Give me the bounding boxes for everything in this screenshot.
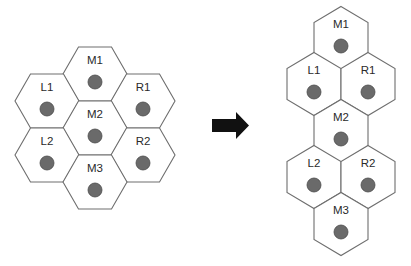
hex-label: M1 — [87, 54, 103, 66]
hex-label: R1 — [136, 81, 151, 93]
hex-label: M3 — [333, 204, 349, 216]
transform-arrow-icon — [212, 112, 249, 139]
base-station-dot-icon — [334, 132, 348, 146]
base-station-dot-icon — [136, 156, 150, 170]
base-station-dot-icon — [88, 75, 102, 89]
hex-label: L2 — [41, 135, 54, 147]
base-station-dot-icon — [307, 85, 321, 99]
base-station-dot-icon — [40, 102, 54, 116]
base-station-dot-icon — [361, 178, 375, 192]
hex-label: M1 — [333, 18, 349, 30]
hex-label: M3 — [87, 162, 103, 174]
hexagon-rearrangement-diagram: M1L1R1M2L2R2M3 M1L1R1M2L2R2M3 — [0, 0, 411, 266]
hex-label: R1 — [361, 64, 376, 76]
right-hex-cluster: M1L1R1M2L2R2M3 — [287, 7, 395, 256]
hex-label: L1 — [308, 64, 321, 76]
base-station-dot-icon — [88, 129, 102, 143]
base-station-dot-icon — [88, 183, 102, 197]
base-station-dot-icon — [40, 156, 54, 170]
hex-label: M2 — [87, 108, 103, 120]
base-station-dot-icon — [361, 85, 375, 99]
hex-label: L1 — [41, 81, 54, 93]
base-station-dot-icon — [334, 39, 348, 53]
base-station-dot-icon — [307, 178, 321, 192]
base-station-dot-icon — [334, 225, 348, 239]
base-station-dot-icon — [136, 102, 150, 116]
left-hex-cluster: M1L1R1M2L2R2M3 — [15, 47, 175, 209]
hex-label: R2 — [136, 135, 151, 147]
hex-label: R2 — [361, 157, 376, 169]
hex-label: M2 — [333, 111, 349, 123]
hex-label: L2 — [308, 157, 321, 169]
